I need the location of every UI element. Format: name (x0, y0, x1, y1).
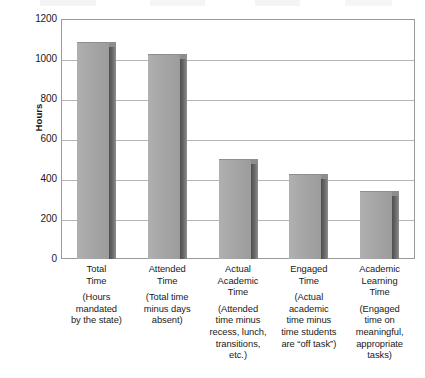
x-label-line: absent) (152, 314, 183, 325)
x-label-line: minus days (144, 303, 191, 314)
x-label-line: transitions, (216, 338, 261, 349)
x-axis-category-labels: TotalTime(Hoursmandatedby the state)Atte… (61, 263, 415, 375)
x-label-line: etc.) (229, 349, 247, 360)
x-category-heading: AcademicLearningTime (338, 263, 421, 298)
x-label-line: time minus (286, 314, 331, 325)
x-label-line: Academic (218, 275, 259, 286)
x-label-line: by the state) (71, 314, 122, 325)
bar-side-face (392, 196, 399, 259)
x-label-line: Engaged (290, 263, 327, 274)
x-label-line: academic (289, 303, 329, 314)
x-label-line: tasks) (367, 349, 392, 360)
x-label-line: Total (87, 263, 107, 274)
bar (219, 153, 258, 259)
x-label-line: Attended (149, 263, 186, 274)
x-label-line: Time (299, 275, 319, 286)
x-label-line: Time (157, 275, 177, 286)
y-tick-label: 1000 (11, 54, 57, 64)
bar-side-face (109, 47, 116, 259)
x-category-label: AcademicLearningTime(Engagedtime onmeani… (338, 263, 421, 361)
x-label-line: time on (364, 314, 394, 325)
x-category-description: (Engagedtime onmeaningful,appropriatetas… (338, 303, 421, 361)
y-tick-label: 800 (11, 94, 57, 104)
y-tick-label: 1200 (11, 14, 57, 24)
bar-top-face (392, 191, 399, 196)
x-label-line: time minus (216, 314, 261, 325)
x-label-line: Academic (359, 263, 400, 274)
bar (289, 168, 328, 259)
x-label-line: (Engaged (359, 303, 399, 314)
bar-top-face (109, 42, 116, 47)
bar (360, 185, 399, 259)
bar-top-face (251, 159, 258, 164)
x-label-line: Time (86, 275, 106, 286)
bar (148, 48, 187, 259)
bar-top-face (321, 174, 328, 179)
x-label-line: Actual (225, 263, 251, 274)
y-tick-label: 400 (11, 174, 57, 184)
bar-front-face (219, 159, 251, 259)
bar-top-face (180, 54, 187, 59)
x-label-line: Time (369, 286, 389, 297)
x-label-line: Time (228, 286, 248, 297)
bar-front-face (148, 54, 180, 259)
x-label-line: mandated (76, 303, 117, 314)
x-label-line: are “off task”) (281, 338, 336, 349)
y-tick-label: 0 (11, 254, 57, 264)
bar-front-face (77, 42, 109, 259)
bar-chart: Hours 120010008006004002000 TotalTime(Ho… (0, 0, 425, 378)
x-label-line: (Total time (146, 291, 189, 302)
x-label-line: (Attended (218, 303, 258, 314)
x-label-line: Learning (362, 275, 398, 286)
scan-artifact (0, 0, 425, 6)
x-label-line: recess, lunch, (209, 326, 266, 337)
bar (77, 36, 116, 259)
bars-layer (61, 19, 415, 259)
bar-side-face (321, 179, 328, 259)
x-label-line: (Actual (294, 291, 323, 302)
bar-front-face (360, 191, 392, 259)
y-tick-label: 200 (11, 214, 57, 224)
x-label-line: time students (281, 326, 336, 337)
bar-front-face (289, 174, 321, 259)
x-label-line: appropriate (356, 338, 403, 349)
bar-side-face (251, 164, 258, 259)
y-tick-label: 600 (11, 134, 57, 144)
bar-side-face (180, 59, 187, 259)
x-label-line: meaningful, (356, 326, 404, 337)
x-label-line: (Hours (82, 291, 110, 302)
